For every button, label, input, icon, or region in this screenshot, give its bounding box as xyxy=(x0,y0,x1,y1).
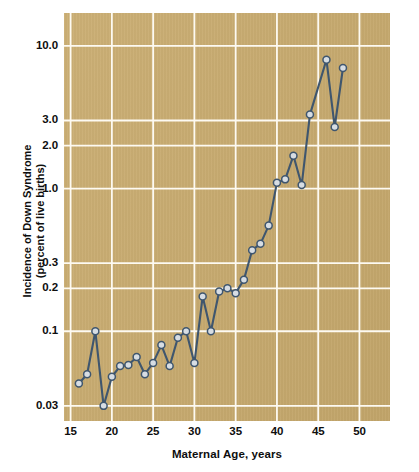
data-point xyxy=(273,179,280,186)
data-point xyxy=(249,247,256,254)
data-point xyxy=(323,56,330,63)
x-axis-tick-label: 40 xyxy=(257,425,297,438)
data-point xyxy=(92,328,99,335)
data-point xyxy=(133,354,140,361)
vertical-gridlines xyxy=(71,13,360,421)
data-point xyxy=(298,181,305,188)
data-point xyxy=(216,288,223,295)
data-point xyxy=(306,111,313,118)
x-axis-tick-label: 50 xyxy=(339,425,379,438)
data-point xyxy=(75,380,82,387)
data-point xyxy=(282,176,289,183)
x-axis-tick-label: 15 xyxy=(51,425,91,438)
x-axis-tick-label: 35 xyxy=(216,425,256,438)
data-point xyxy=(108,373,115,380)
data-point xyxy=(183,328,190,335)
data-point xyxy=(150,359,157,366)
data-point xyxy=(125,362,132,369)
y-axis-title: Incidence of Down Syndrome (percent of l… xyxy=(21,21,47,421)
x-axis-title: Maternal Age, years xyxy=(64,448,390,460)
data-point xyxy=(199,293,206,300)
data-point-markers xyxy=(75,56,346,409)
y-axis-title-line-1: Incidence of Down Syndrome xyxy=(21,21,34,421)
data-series-layer xyxy=(64,13,390,421)
data-point xyxy=(141,371,148,378)
plot-area xyxy=(64,13,390,421)
data-point xyxy=(240,276,247,283)
x-axis-tick-label: 30 xyxy=(174,425,214,438)
data-point xyxy=(257,240,264,247)
y-axis-title-line-2: (percent of live births) xyxy=(34,21,47,421)
data-point xyxy=(232,290,239,297)
data-point xyxy=(339,64,346,71)
data-point xyxy=(174,334,181,341)
data-point xyxy=(191,359,198,366)
data-point xyxy=(207,328,214,335)
x-axis-tick-label: 45 xyxy=(298,425,338,438)
data-point xyxy=(166,363,173,370)
data-point xyxy=(331,124,338,131)
data-point xyxy=(117,363,124,370)
data-point xyxy=(224,285,231,292)
data-point xyxy=(84,371,91,378)
data-point xyxy=(290,152,297,159)
data-point xyxy=(158,342,165,349)
data-point xyxy=(100,402,107,409)
horizontal-gridlines xyxy=(64,46,390,406)
x-axis-tick-label: 25 xyxy=(133,425,173,438)
data-line xyxy=(79,60,343,406)
x-axis-tick-labels: 1520253035404550 xyxy=(64,425,390,441)
x-axis-tick-label: 20 xyxy=(92,425,132,438)
data-point xyxy=(265,222,272,229)
chart-figure: 0.030.10.20.31.02.03.010.0 1520253035404… xyxy=(0,0,419,472)
